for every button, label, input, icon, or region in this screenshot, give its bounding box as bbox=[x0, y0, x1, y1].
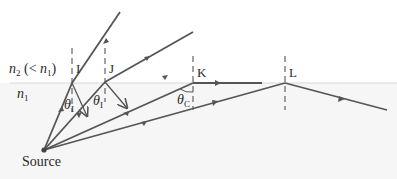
ray-to-L-incident bbox=[44, 83, 285, 150]
ray-to-K-incident bbox=[44, 83, 193, 150]
ray-diagram-svg bbox=[0, 0, 397, 179]
angle-label-theta-I: θI bbox=[64, 98, 74, 114]
medium-lower-label: n1 bbox=[17, 87, 29, 103]
point-label-L: L bbox=[289, 66, 297, 79]
angle-label-theta-J: θI bbox=[93, 94, 103, 110]
medium-upper-label: n2 (< n1) bbox=[9, 62, 56, 78]
point-label-K: K bbox=[197, 66, 206, 79]
source-point bbox=[41, 147, 46, 152]
source-label: Source bbox=[22, 155, 61, 169]
ray-L-reflected bbox=[285, 83, 387, 110]
angle-label-theta-c: θC bbox=[177, 93, 190, 109]
ray-J-reflected bbox=[105, 82, 127, 108]
direction-arrows bbox=[58, 38, 345, 126]
total-internal-reflection-diagram: n2 (< n1) n1 I J K L θI θI θC Source bbox=[0, 0, 397, 179]
point-label-I: I bbox=[76, 62, 80, 75]
point-label-J: J bbox=[109, 62, 114, 75]
